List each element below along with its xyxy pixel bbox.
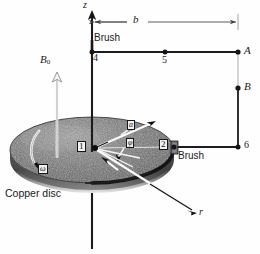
node-dot-2 [171, 144, 176, 149]
brush-label-bottom: Brush [178, 151, 204, 161]
angle-alpha-label: a [127, 120, 135, 130]
node-dot-b [235, 85, 240, 90]
node-dot-a [235, 49, 240, 54]
b-symbol: B [40, 53, 47, 65]
angular-velocity-label: ω [38, 164, 48, 174]
b-subscript: 0 [47, 58, 51, 66]
node-label-5: 5 [162, 55, 167, 65]
copper-disc-caption: Copper disc [5, 188, 61, 199]
node-label-6: 6 [244, 140, 249, 150]
node-label-4: 4 [93, 53, 98, 63]
magnetic-flux-density-label: B0 [40, 54, 50, 66]
dimension-b-label: b [133, 14, 139, 25]
terminal-b-label: B [244, 81, 251, 92]
dimension-line-b [95, 14, 238, 30]
terminal-a-label: A [244, 45, 251, 56]
z-axis-label: z [83, 0, 87, 10]
faraday-disc-figure: z B0 b Brush Brush A B 4 5 6 1 2 a φ ω r… [0, 0, 260, 254]
brush-label-top: Brush [94, 33, 120, 43]
angle-phi-label: φ [126, 138, 134, 148]
node-dot-6 [236, 145, 241, 150]
node-label-1: 1 [77, 141, 86, 152]
node-label-2: 2 [159, 139, 168, 150]
node-dot-1 [92, 145, 98, 151]
radius-r-label: r [199, 207, 203, 217]
